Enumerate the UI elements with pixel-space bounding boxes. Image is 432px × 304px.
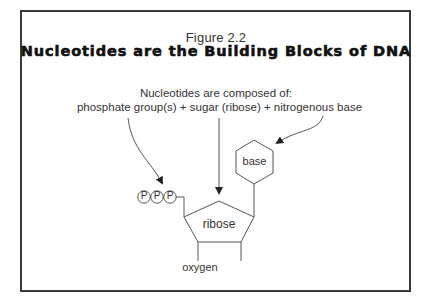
- oxygen-label: oxygen: [170, 261, 230, 273]
- phosphate-label: P: [152, 190, 162, 201]
- nucleotide-diagram: [0, 0, 432, 304]
- phosphate-label: P: [139, 190, 149, 201]
- base-arrow: [277, 116, 323, 143]
- ribose-label: ribose: [189, 217, 249, 231]
- base-label: base: [236, 155, 273, 167]
- phosphate-arrow: [128, 118, 162, 183]
- phosphate-label: P: [165, 190, 175, 201]
- phosphate-connector: [176, 197, 184, 217]
